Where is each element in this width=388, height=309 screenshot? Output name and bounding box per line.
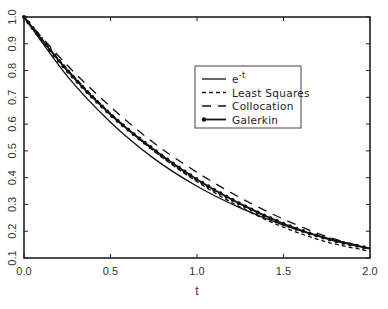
galerkin-marker	[57, 59, 61, 63]
galerkin-marker	[132, 132, 136, 136]
galerkin-marker	[200, 181, 204, 185]
galerkin-marker	[225, 195, 229, 199]
galerkin-marker	[206, 184, 210, 188]
galerkin-marker	[355, 244, 359, 248]
galerkin-marker	[243, 204, 247, 208]
galerkin-marker	[341, 241, 345, 245]
galerkin-marker	[116, 119, 120, 123]
galerkin-marker	[80, 85, 84, 89]
y-tick-label: 0.2	[6, 224, 18, 239]
galerkin-marker	[275, 219, 279, 223]
galerkin-marker	[39, 37, 43, 41]
x-tick-label: 0.0	[16, 265, 31, 277]
galerkin-marker	[35, 32, 39, 36]
galerkin-marker	[281, 222, 285, 226]
y-tick-label: 1.0	[6, 9, 18, 24]
legend-superscript: -t	[239, 71, 246, 80]
galerkin-marker	[75, 80, 79, 84]
galerkin-marker	[90, 95, 94, 99]
galerkin-marker	[218, 191, 222, 195]
least-squares-curve	[24, 17, 370, 251]
galerkin-marker	[110, 114, 114, 118]
legend: e-tLeast SquaresCollocationGalerkin	[195, 66, 310, 128]
galerkin-marker	[137, 137, 141, 141]
y-tick-label: 0.3	[6, 197, 18, 212]
galerkin-marker	[52, 53, 56, 57]
y-tick-label: 0.8	[6, 63, 18, 78]
galerkin-marker	[335, 239, 339, 243]
legend-marker	[202, 117, 206, 121]
galerkin-marker	[105, 109, 109, 113]
galerkin-marker	[148, 145, 152, 149]
galerkin-marker	[121, 123, 125, 127]
galerkin-marker	[301, 229, 305, 233]
y-tick-label: 0.4	[6, 170, 18, 185]
galerkin-marker	[268, 216, 272, 220]
legend-label-galerkin: Galerkin	[232, 114, 278, 126]
x-axis-label: t	[195, 284, 199, 298]
galerkin-marker	[231, 198, 235, 202]
galerkin-marker	[165, 157, 169, 161]
galerkin-marker	[171, 162, 175, 166]
y-tick-label: 0.6	[6, 116, 18, 131]
plot-frame	[24, 17, 370, 258]
galerkin-marker	[100, 105, 104, 109]
x-tick-label: 1.0	[189, 265, 204, 277]
y-tick-label: 0.1	[6, 250, 18, 265]
galerkin-marker	[256, 210, 260, 214]
galerkin-marker	[95, 100, 99, 104]
galerkin-marker	[61, 64, 65, 68]
galerkin-marker	[294, 227, 298, 231]
galerkin-marker	[308, 231, 312, 235]
galerkin-marker	[160, 153, 164, 157]
galerkin-marker	[71, 75, 75, 79]
galerkin-marker	[188, 173, 192, 177]
galerkin-marker	[66, 69, 70, 73]
galerkin-marker	[348, 242, 352, 246]
galerkin-marker	[26, 20, 30, 24]
x-tick-label: 0.5	[103, 265, 118, 277]
x-tick-label: 2.0	[362, 265, 377, 277]
galerkin-marker	[194, 177, 198, 181]
galerkin-marker	[48, 48, 52, 52]
galerkin-marker	[212, 188, 216, 192]
curves	[22, 15, 370, 251]
galerkin-marker	[362, 245, 366, 249]
galerkin-marker	[237, 201, 241, 205]
galerkin-marker	[262, 213, 266, 217]
legend-label-least-squares: Least Squares	[232, 87, 310, 99]
galerkin-marker	[314, 234, 318, 238]
galerkin-marker	[328, 238, 332, 242]
e-curve	[24, 17, 370, 249]
galerkin-marker	[44, 42, 48, 46]
galerkin-marker	[321, 236, 325, 240]
galerkin-marker	[177, 166, 181, 170]
galerkin-marker	[183, 169, 187, 173]
line-chart: 0.00.51.01.52.00.10.20.30.40.50.60.70.80…	[0, 0, 388, 309]
x-tick-label: 1.5	[276, 265, 291, 277]
galerkin-curve	[24, 17, 370, 249]
y-tick-label: 0.9	[6, 36, 18, 51]
galerkin-marker	[85, 90, 89, 94]
collocation-curve	[24, 17, 370, 249]
galerkin-marker	[154, 149, 158, 153]
y-tick-label: 0.7	[6, 90, 18, 105]
plot-border	[24, 17, 370, 258]
legend-label-collocation: Collocation	[232, 100, 294, 112]
galerkin-marker	[31, 26, 35, 30]
galerkin-marker	[126, 128, 130, 132]
galerkin-marker	[288, 224, 292, 228]
galerkin-marker	[143, 141, 147, 145]
galerkin-marker	[249, 207, 253, 211]
y-tick-label: 0.5	[6, 143, 18, 158]
